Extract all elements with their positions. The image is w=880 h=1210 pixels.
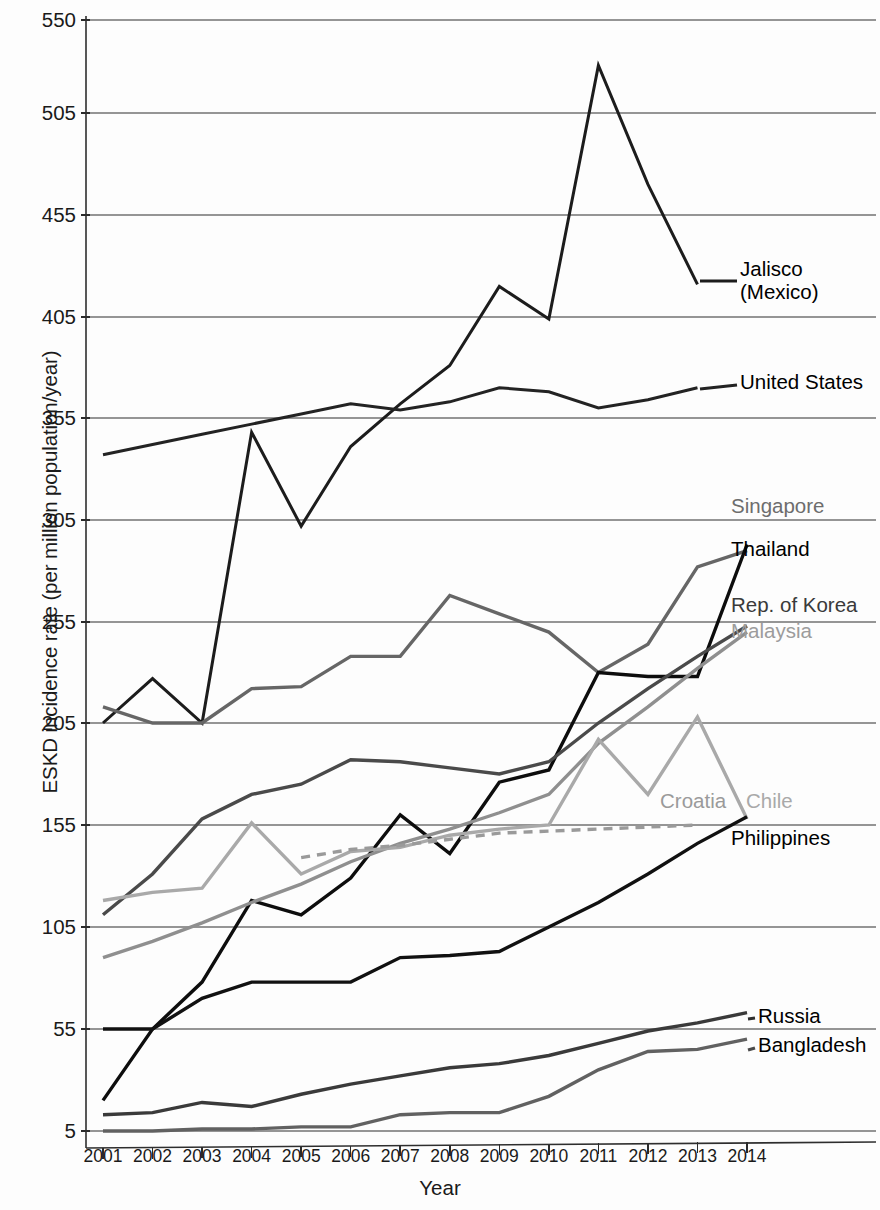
series-label-croatia: Croatia xyxy=(660,790,726,813)
gridlines xyxy=(87,20,876,1131)
chart-figure: ESKD incidence rate (per million populat… xyxy=(0,0,880,1210)
series-line-russia xyxy=(103,1013,747,1115)
series-label-russia: Russia xyxy=(758,1005,821,1028)
series-label-singapore: Singapore xyxy=(731,495,824,518)
series-label-chile: Chile xyxy=(746,790,793,813)
series-line-united-states xyxy=(103,388,697,455)
leader-united-states xyxy=(700,385,737,389)
series-line-jalisco-mexico xyxy=(103,65,697,723)
x-axis-line xyxy=(86,1142,876,1148)
series-lines xyxy=(103,65,747,1131)
series-label-bangladesh: Bangladesh xyxy=(758,1034,866,1057)
leader-russia xyxy=(748,1018,755,1019)
series-label-philippines: Philippines xyxy=(731,827,830,850)
series-label-malaysia: Malaysia xyxy=(731,620,812,643)
series-line-singapore xyxy=(103,551,747,723)
series-label-jalisco-line2: (Mexico) xyxy=(740,281,819,304)
series-line-bangladesh xyxy=(103,1039,747,1131)
series-label-jalisco-line1: Jalisco xyxy=(740,258,819,281)
series-label-united-states: United States xyxy=(740,371,863,394)
series-line-malaysia xyxy=(103,632,747,958)
label-leader-lines xyxy=(700,281,755,1050)
series-label-jalisco: Jalisco (Mexico) xyxy=(740,258,819,304)
leader-bangladesh xyxy=(748,1048,755,1050)
series-label-korea: Rep. of Korea xyxy=(731,594,858,617)
series-label-thailand: Thailand xyxy=(731,538,810,561)
